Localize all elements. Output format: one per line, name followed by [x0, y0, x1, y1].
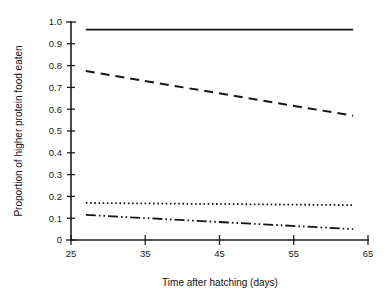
y-tick-label: 0	[57, 234, 62, 245]
x-axis-title: Time after hatching (days)	[162, 277, 278, 288]
x-tick-label: 65	[363, 248, 374, 259]
y-tick-label: 0.7	[49, 82, 62, 93]
y-axis-title: Proportion of higher protein food eaten	[13, 45, 24, 216]
y-tick-label: 0.8	[49, 60, 62, 71]
y-tick-label: 0.9	[49, 38, 62, 49]
y-tick-label: 0.4	[49, 147, 62, 158]
y-tick-label: 1.0	[49, 16, 62, 27]
y-tick-label: 0.1	[49, 213, 62, 224]
y-tick-label: 0.2	[49, 191, 62, 202]
line-chart: 00.10.20.30.40.50.60.70.80.91.0 25354555…	[0, 0, 392, 296]
x-tick-label: 55	[288, 248, 299, 259]
x-tick-label: 45	[214, 248, 225, 259]
y-tick-label: 0.5	[49, 125, 62, 136]
y-tick-label: 0.6	[49, 104, 62, 115]
x-tick-label: 25	[66, 248, 77, 259]
chart-figure: 00.10.20.30.40.50.60.70.80.91.0 25354555…	[0, 0, 392, 296]
x-tick-label: 35	[140, 248, 151, 259]
y-tick-label: 0.3	[49, 169, 62, 180]
